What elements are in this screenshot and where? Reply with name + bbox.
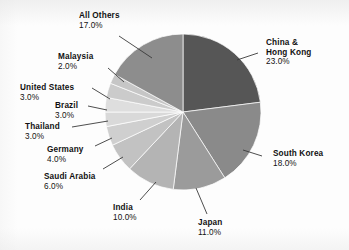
label-brazil-name: Brazil xyxy=(55,101,78,111)
label-saudi-arabia-name: Saudi Arabia xyxy=(44,172,96,182)
label-india: India 10.0% xyxy=(113,203,137,222)
label-malaysia: Malaysia 2.0% xyxy=(58,52,93,71)
label-japan-value: 11.0% xyxy=(198,228,222,238)
label-malaysia-name: Malaysia xyxy=(58,52,93,62)
leader-line-germany xyxy=(95,138,112,146)
leader-line-india xyxy=(140,182,156,200)
pie-slices-group xyxy=(105,34,261,190)
label-germany: Germany 4.0% xyxy=(47,145,84,164)
label-china-hong-kong: China & Hong Kong 23.0% xyxy=(266,38,311,67)
label-china-hong-kong-name-line2: Hong Kong xyxy=(266,48,311,58)
label-south-korea-name: South Korea xyxy=(273,149,323,159)
label-thailand-name: Thailand xyxy=(25,122,60,132)
label-south-korea-value: 18.0% xyxy=(273,159,323,169)
leader-line-saudi-arabia xyxy=(103,157,123,169)
label-all-others: All Others 17.0% xyxy=(79,11,120,30)
leader-line-japan xyxy=(196,188,207,214)
label-brazil: Brazil 3.0% xyxy=(55,101,78,120)
label-all-others-name: All Others xyxy=(79,11,120,21)
label-south-korea: South Korea 18.0% xyxy=(273,149,323,168)
label-china-hong-kong-name-line1: China & xyxy=(266,38,311,48)
label-china-hong-kong-value: 23.0% xyxy=(266,57,311,67)
leader-line-china xyxy=(237,53,258,60)
label-saudi-arabia-value: 6.0% xyxy=(44,182,96,192)
label-united-states-value: 3.0% xyxy=(20,93,74,103)
label-japan-name: Japan xyxy=(198,218,222,228)
label-united-states-name: United States xyxy=(20,83,74,93)
label-malaysia-value: 2.0% xyxy=(58,62,93,72)
label-germany-name: Germany xyxy=(47,145,84,155)
label-all-others-value: 17.0% xyxy=(79,21,120,31)
label-thailand-value: 3.0% xyxy=(25,132,60,142)
label-thailand: Thailand 3.0% xyxy=(25,122,60,141)
label-germany-value: 4.0% xyxy=(47,155,84,165)
label-brazil-value: 3.0% xyxy=(55,111,78,121)
pie-chart-figure: All Others 17.0% China & Hong Kong 23.0%… xyxy=(0,0,349,250)
label-india-value: 10.0% xyxy=(113,213,137,223)
label-saudi-arabia: Saudi Arabia 6.0% xyxy=(44,172,96,191)
leader-line-brazil xyxy=(88,106,107,110)
label-india-name: India xyxy=(113,203,137,213)
leader-line-thailand xyxy=(72,121,108,127)
label-united-states: United States 3.0% xyxy=(20,83,74,102)
label-japan: Japan 11.0% xyxy=(198,218,222,237)
pie-slice-china-and-hong-kong xyxy=(183,34,260,112)
